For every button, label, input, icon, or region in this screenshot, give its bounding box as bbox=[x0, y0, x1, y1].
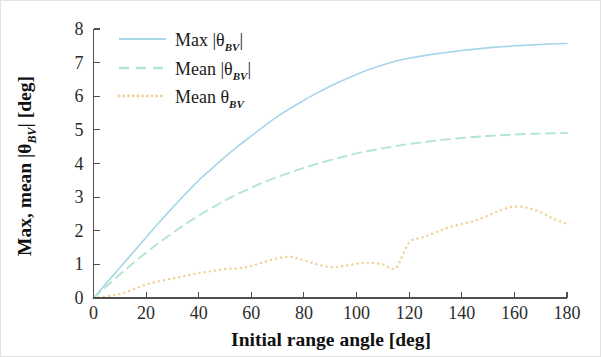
tick-labels-group: 020406080100120140160180012345678 bbox=[75, 19, 581, 323]
y-tick-label: 1 bbox=[75, 254, 84, 274]
x-tick-label: 40 bbox=[190, 303, 208, 323]
y-tick-label: 0 bbox=[75, 288, 84, 308]
x-tick-label: 60 bbox=[242, 303, 260, 323]
y-tick-label: 7 bbox=[75, 53, 84, 73]
x-tick-label: 100 bbox=[343, 303, 370, 323]
svg-text:Max, mean |θBV| [deg]: Max, mean |θBV| [deg] bbox=[14, 76, 39, 256]
y-tick-label: 3 bbox=[75, 187, 84, 207]
legend-label-2: Mean |θBV| bbox=[175, 59, 251, 82]
y-tick-label: 5 bbox=[75, 120, 84, 140]
x-axis-title: Initial range angle [deg] bbox=[231, 329, 431, 350]
y-tick-label: 6 bbox=[75, 86, 84, 106]
y-tick-label: 8 bbox=[75, 19, 84, 39]
axis-spines bbox=[94, 29, 568, 298]
series-group bbox=[94, 43, 568, 298]
svg-text:Initial range angle [deg]: Initial range angle [deg] bbox=[231, 329, 431, 350]
y-tick-label: 4 bbox=[75, 154, 84, 174]
x-tick-label: 160 bbox=[501, 303, 528, 323]
series-line-3 bbox=[94, 206, 568, 298]
chart-plot-area: 020406080100120140160180012345678 Max |θ… bbox=[1, 1, 601, 357]
y-tick-label: 2 bbox=[75, 221, 84, 241]
y-axis-title: Max, mean |θBV| [deg] bbox=[14, 76, 39, 256]
x-tick-label: 120 bbox=[396, 303, 423, 323]
x-tick-label: 80 bbox=[295, 303, 313, 323]
axes-group bbox=[94, 29, 568, 298]
chart-figure: 020406080100120140160180012345678 Max |θ… bbox=[0, 0, 601, 357]
series-line-1 bbox=[94, 43, 568, 298]
legend-label-3: Mean θBV bbox=[175, 87, 245, 110]
x-tick-label: 20 bbox=[137, 303, 155, 323]
x-tick-label: 180 bbox=[554, 303, 581, 323]
x-tick-label: 140 bbox=[448, 303, 475, 323]
ticks-group bbox=[94, 29, 568, 298]
chart-legend: Max |θBV|Mean |θBV|Mean θBV bbox=[119, 30, 251, 110]
x-tick-label: 0 bbox=[89, 303, 98, 323]
legend-label-1: Max |θBV| bbox=[175, 30, 243, 53]
